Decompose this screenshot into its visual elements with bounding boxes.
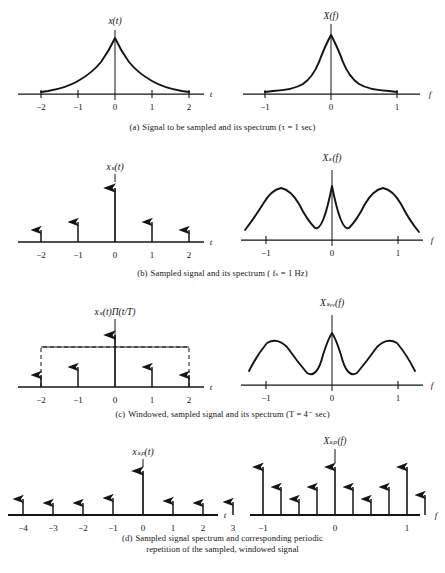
plot-b-right: Xₛ(f) f −1 0 1	[237, 144, 442, 268]
caption-c: (c)Windowed, sampled signal and its spec…	[0, 409, 445, 420]
tick-label-1: 1	[396, 248, 401, 258]
axis-label-f: f	[435, 510, 439, 520]
caption-c-text: Windowed, sampled signal and its spectru…	[128, 409, 329, 419]
spectrum-label-Xf: X(f)	[323, 11, 339, 22]
tick-label-minus1: −1	[258, 523, 268, 533]
panel-d: xₛₚ(t) t −4 −3 −2 −1 0 1 2 3	[0, 425, 445, 573]
plot-d-right: Xₛₚ(f) f −1 0 1	[248, 429, 445, 541]
caption-a: (a)Signal to be sampled and its spectrum…	[0, 122, 445, 133]
tick-label-minus1: −1	[108, 523, 118, 533]
caption-b-text: Sampled signal and its spectrum ( fₛ = 1…	[151, 268, 308, 278]
spectrum-label-Xswf: Xₛᵥᵥ(f)	[319, 298, 344, 309]
caption-a-label: (a)	[130, 122, 140, 132]
spectrum-label-Xspf: Xₛₚ(f)	[323, 436, 347, 447]
panel-b: xₛ(t) t −2 −1 0 1 2 Xₛ(f) f −1	[0, 140, 445, 285]
tick-label-1: 1	[150, 395, 155, 405]
axis-label-t: t	[210, 237, 213, 247]
tick-label-minus1: −1	[73, 395, 83, 405]
tick-label-1: 1	[150, 102, 155, 112]
plot-a-left: x(t) t −2 −1 0 1 2	[8, 8, 223, 116]
plot-b-left: xₛ(t) t −2 −1 0 1 2	[8, 158, 223, 268]
signal-label-windowed: xₛ(t)Π(t/T)	[94, 307, 136, 318]
tick-label-minus2: −2	[36, 250, 46, 260]
axis-label-t: t	[210, 382, 213, 392]
tick-label-zero: 0	[113, 250, 118, 260]
tick-label-2: 2	[187, 102, 192, 112]
plot-c-right: Xₛᵥᵥ(f) f −1 0 1	[237, 291, 442, 411]
tick-label-2: 2	[187, 395, 192, 405]
tick-label-minus1: −1	[73, 250, 83, 260]
axis-label-f: f	[431, 235, 435, 245]
caption-d-line1: Sampled signal spectrum and correspondin…	[135, 533, 323, 543]
signal-label-xst: xₛ(t)	[105, 162, 123, 173]
axis-label-t: t	[224, 510, 227, 520]
signal-processing-figure: x(t) t −2 −1 0 1 2 X(f) f −1	[0, 0, 445, 573]
caption-d-line2: repetition of the sampled, windowed sign…	[0, 544, 445, 555]
tick-label-zero: 0	[333, 523, 338, 533]
caption-b-label: (b)	[137, 268, 147, 278]
caption-a-text: Signal to be sampled and its spectrum (τ…	[142, 122, 315, 132]
tick-label-1: 1	[405, 523, 410, 533]
axis-label-t: t	[210, 89, 213, 99]
axis-label-f: f	[429, 89, 433, 99]
tick-label-zero: 0	[113, 395, 118, 405]
plot-c-left: xₛ(t)Π(t/T) t −2 −1 0 1 2	[8, 301, 223, 413]
tick-label-minus2: −2	[36, 395, 46, 405]
tick-label-3: 3	[231, 523, 236, 533]
tick-label-1: 1	[396, 393, 401, 403]
tick-label-2: 2	[201, 523, 206, 533]
tick-label-minus2: −2	[78, 523, 88, 533]
plot-a-right: X(f) f −1 0 1	[237, 6, 442, 116]
spectrum-label-Xsf: Xₛ(f)	[322, 153, 342, 164]
tick-label-minus1: −1	[260, 102, 270, 112]
tick-label-1: 1	[171, 523, 176, 533]
tick-label-minus1: −1	[261, 248, 271, 258]
panel-c: xₛ(t)Π(t/T) t −2 −1 0 1 2 Xₛᵥᵥ(f) f	[0, 285, 445, 425]
tick-label-minus3: −3	[48, 523, 58, 533]
tick-label-zero: 0	[330, 248, 335, 258]
plot-d-left: xₛₚ(t) t −4 −3 −2 −1 0 1 2 3	[4, 443, 234, 543]
tick-label-minus4: −4	[18, 523, 28, 533]
tick-label-zero: 0	[113, 102, 118, 112]
caption-d-label: (d)	[122, 533, 132, 543]
tick-label-minus1: −1	[261, 393, 271, 403]
panel-a: x(t) t −2 −1 0 1 2 X(f) f −1	[0, 0, 445, 140]
tick-label-zero: 0	[329, 102, 334, 112]
caption-d: (d)Sampled signal spectrum and correspon…	[0, 533, 445, 555]
tick-label-minus2: −2	[36, 102, 46, 112]
tick-label-minus1: −1	[73, 102, 83, 112]
tick-label-1: 1	[150, 250, 155, 260]
tick-label-1: 1	[395, 102, 400, 112]
signal-label-xt: x(t)	[107, 16, 121, 27]
caption-c-label: (c)	[115, 409, 125, 419]
axis-label-f: f	[431, 380, 435, 390]
tick-label-zero: 0	[141, 523, 146, 533]
tick-label-2: 2	[187, 250, 192, 260]
caption-b: (b)Sampled signal and its spectrum ( fₛ …	[0, 268, 445, 279]
signal-label-xspt: xₛₚ(t)	[131, 447, 153, 458]
tick-label-zero: 0	[330, 393, 335, 403]
